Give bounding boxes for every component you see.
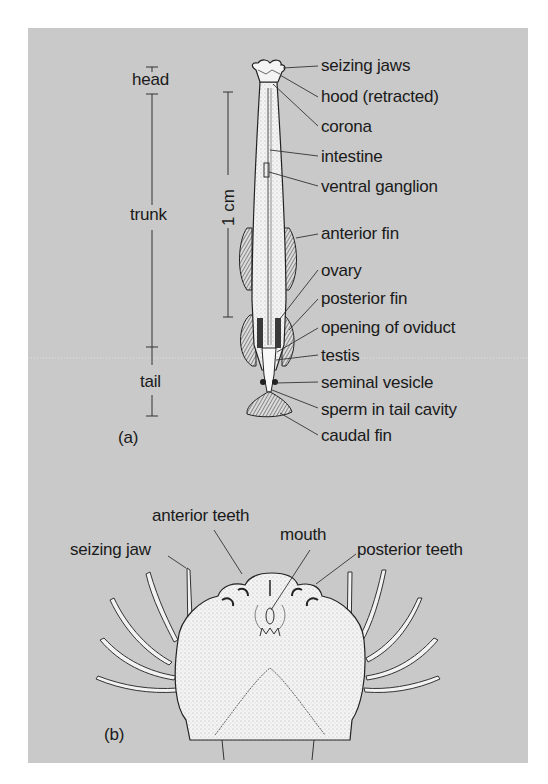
panel-tag-b: (b)	[104, 725, 124, 745]
panel-tag-a: (a)	[118, 428, 138, 448]
label-seminal-vesicle: seminal vesicle	[321, 373, 433, 393]
region-label-trunk: trunk	[130, 205, 167, 225]
label-seizing-jaws: seizing jaws	[321, 56, 410, 76]
label-opening-of-oviduct: opening of oviduct	[321, 318, 455, 338]
label-mouth: mouth	[280, 525, 326, 545]
label-hood-retracted: hood (retracted)	[321, 87, 439, 107]
label-ventral-ganglion: ventral ganglion	[321, 177, 438, 197]
scale-bar-label: 1 cm	[219, 189, 239, 226]
worm-body-a	[239, 60, 296, 417]
label-sperm-in-tail-cavity: sperm in tail cavity	[321, 400, 457, 420]
arrow-worm-illustration	[0, 0, 548, 784]
label-posterior-fin: posterior fin	[321, 289, 407, 309]
label-corona: corona	[321, 117, 372, 137]
label-anterior-fin: anterior fin	[321, 224, 399, 244]
label-seizing-jaw: seizing jaw	[70, 540, 151, 560]
label-ovary: ovary	[321, 261, 362, 281]
head-illustration-b	[96, 568, 440, 760]
region-label-head: head	[132, 70, 169, 90]
region-ruler	[146, 67, 158, 416]
label-intestine: intestine	[321, 147, 383, 167]
label-testis: testis	[321, 346, 359, 366]
label-posterior-teeth: posterior teeth	[357, 540, 463, 560]
region-label-tail: tail	[140, 372, 161, 392]
label-caudal-fin: caudal fin	[321, 426, 392, 446]
label-anterior-teeth: anterior teeth	[152, 506, 249, 526]
